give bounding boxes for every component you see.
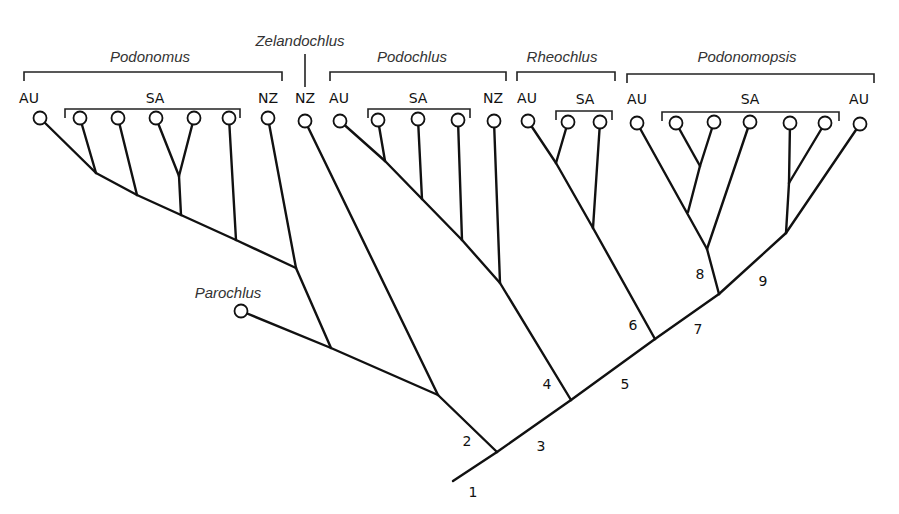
leaf-circle xyxy=(744,116,757,129)
branch xyxy=(236,240,296,268)
branch xyxy=(556,163,593,228)
leaf-circle xyxy=(299,115,312,128)
branch xyxy=(305,121,438,395)
region-label: AU xyxy=(849,91,869,107)
region-label: AU xyxy=(329,90,349,106)
genus-label: Podonomus xyxy=(110,48,191,65)
branch xyxy=(268,118,296,268)
leaf-circle xyxy=(594,116,607,129)
branch xyxy=(118,118,137,195)
node-number: 2 xyxy=(463,433,472,449)
branch xyxy=(181,215,236,240)
branch xyxy=(688,166,700,212)
branch xyxy=(156,118,179,176)
leaf-circle xyxy=(34,112,47,125)
node-number: 9 xyxy=(759,273,768,289)
leaf-circle xyxy=(112,112,125,125)
leaf-circle xyxy=(708,116,721,129)
labels: PodonomusZelandochlusPodochlusRheochlusP… xyxy=(19,32,869,500)
branch xyxy=(497,400,571,452)
branch xyxy=(528,121,556,163)
branch xyxy=(707,122,750,249)
branch xyxy=(637,123,707,249)
region-label: AU xyxy=(627,91,647,107)
branch xyxy=(593,122,600,228)
branch xyxy=(96,173,137,195)
leaf-nodes xyxy=(34,112,867,318)
branch xyxy=(789,123,825,183)
cladogram: PodonomusZelandochlusPodochlusRheochlusP… xyxy=(0,0,899,514)
leaf-circle xyxy=(74,112,87,125)
leaf-circle xyxy=(223,112,236,125)
node-number: 8 xyxy=(696,266,705,282)
node-number: 7 xyxy=(694,321,703,337)
genus-bracket xyxy=(330,72,506,81)
node-number: 3 xyxy=(537,438,546,454)
node-number: 1 xyxy=(469,484,478,500)
leaf-circle xyxy=(412,113,425,126)
genus-label: Podochlus xyxy=(377,48,448,65)
leaf-circle xyxy=(784,117,797,130)
region-label: NZ xyxy=(483,90,503,106)
leaf-circle xyxy=(819,117,832,130)
leaf-circle xyxy=(334,115,347,128)
genus-label: Rheochlus xyxy=(527,48,598,65)
genus-bracket xyxy=(24,72,282,81)
genus-bracket xyxy=(627,74,874,83)
branch xyxy=(422,199,462,240)
outgroup-circle xyxy=(235,305,248,318)
branch xyxy=(137,195,181,215)
branch xyxy=(229,118,236,240)
region-label: NZ xyxy=(258,90,278,106)
branch xyxy=(494,121,500,283)
branch xyxy=(453,452,497,481)
branch xyxy=(462,240,500,283)
node-number: 4 xyxy=(543,376,552,392)
leaf-circle xyxy=(854,118,867,131)
outgroup-label: Parochlus xyxy=(195,284,262,301)
leaf-circle xyxy=(262,112,275,125)
branch xyxy=(179,176,181,215)
genus-label: Podonomopsis xyxy=(697,48,797,65)
tree-branches xyxy=(40,118,860,481)
leaf-circle xyxy=(562,116,575,129)
branch xyxy=(331,348,438,395)
branch xyxy=(655,294,719,339)
region-label: AU xyxy=(19,90,39,106)
branch xyxy=(786,183,789,233)
region-label: SA xyxy=(576,91,595,107)
region-label: SA xyxy=(409,90,428,106)
branch xyxy=(593,228,655,339)
branch xyxy=(719,233,786,294)
region-label: SA xyxy=(146,90,165,106)
leaf-circle xyxy=(631,117,644,130)
node-number: 6 xyxy=(629,317,638,333)
branch xyxy=(707,249,719,294)
leaf-circle xyxy=(150,112,163,125)
leaf-circle xyxy=(452,114,465,127)
region-label: AU xyxy=(517,90,537,106)
branch xyxy=(500,283,571,400)
branch xyxy=(458,120,462,240)
node-number: 5 xyxy=(621,376,630,392)
branch xyxy=(789,123,790,183)
genus-label: Zelandochlus xyxy=(254,32,345,49)
branch xyxy=(786,124,860,233)
branch xyxy=(418,119,422,199)
region-label: NZ xyxy=(295,90,315,106)
region-label: SA xyxy=(741,91,760,107)
leaf-circle xyxy=(522,115,535,128)
leaf-circle xyxy=(488,115,501,128)
branch xyxy=(179,118,194,176)
branch xyxy=(385,161,422,199)
leaf-circle xyxy=(372,114,385,127)
branch xyxy=(571,339,655,400)
genus-bracket xyxy=(517,72,615,81)
leaf-circle xyxy=(188,112,201,125)
leaf-circle xyxy=(670,117,683,130)
